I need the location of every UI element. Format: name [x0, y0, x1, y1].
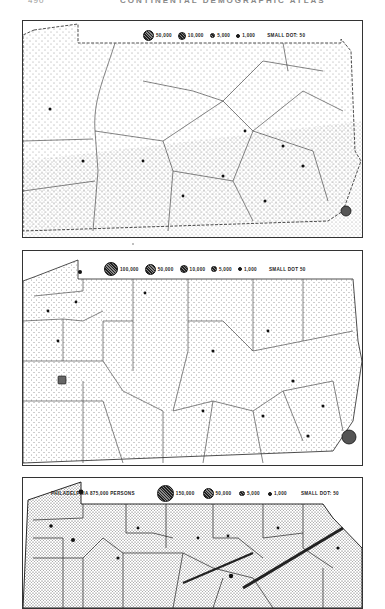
legend-item: 10,000 [178, 32, 204, 40]
legend-item: 5,000 [239, 491, 260, 497]
circle-symbol-icon [210, 33, 216, 39]
population-map-1: 50,000 10,000 5,000 1,000 SMALL DOT: 50 [22, 20, 363, 238]
page-header: 490 CONTINENTAL DEMOGRAPHIC ATLAS [0, 0, 385, 6]
legend-item: 1,000 [238, 267, 257, 272]
legend-item: 50,000 [145, 264, 174, 275]
dot-symbol-icon [238, 267, 242, 271]
pennsylvania-county-map-1 [23, 21, 362, 237]
legend-item: SMALL DOT: 50 [267, 33, 305, 38]
population-map-2: 100,000 50,000 10,000 5,000 1,000 SMALL … [22, 250, 363, 466]
legend-item: 100,000 [104, 262, 139, 276]
map-1-legend: 50,000 10,000 5,000 1,000 SMALL DOT: 50 [143, 30, 305, 41]
circle-symbol-icon [180, 265, 188, 273]
dot-symbol-icon [236, 34, 240, 38]
legend-item: 10,000 [180, 265, 206, 273]
legend-item: 150,000 [157, 485, 195, 502]
legend-item: 5,000 [211, 266, 232, 272]
circle-symbol-icon [145, 264, 156, 275]
pennsylvania-county-map-2 [23, 251, 362, 465]
map-2-legend: 100,000 50,000 10,000 5,000 1,000 SMALL … [104, 262, 306, 276]
philadelphia-note: PHILADELPHIA 875,000 PERSONS [51, 491, 135, 496]
circle-symbol-icon [157, 485, 174, 502]
population-map-3: PHILADELPHIA 875,000 PERSONS 150,000 50,… [22, 477, 363, 609]
circle-symbol-icon [104, 262, 118, 276]
dot-symbol-icon [268, 492, 272, 496]
circle-symbol-icon [203, 488, 214, 499]
map-3-legend: PHILADELPHIA 875,000 PERSONS 150,000 50,… [51, 485, 339, 502]
circle-symbol-icon [143, 30, 154, 41]
legend-item: 50,000 [143, 30, 172, 41]
legend-item: 1,000 [236, 33, 255, 38]
legend-item: SMALL DOT 50 [269, 267, 306, 272]
legend-item: 1,000 [268, 491, 287, 496]
circle-symbol-icon [178, 32, 186, 40]
legend-item: SMALL DOT: 50 [301, 491, 339, 496]
running-head: CONTINENTAL DEMOGRAPHIC ATLAS [120, 0, 335, 5]
separator-dot [132, 243, 134, 245]
page-number: 490 [28, 0, 44, 5]
circle-symbol-icon [211, 266, 217, 272]
legend-item: 50,000 [203, 488, 232, 499]
circle-symbol-icon [239, 491, 245, 497]
legend-item: 5,000 [210, 33, 231, 39]
